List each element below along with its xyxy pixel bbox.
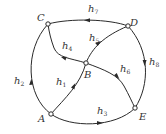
edge-h2 (31, 24, 51, 114)
edge-label-h3: h3 (97, 106, 107, 117)
edge-label-h8: h8 (149, 57, 159, 68)
arrow-h2-icon (29, 79, 33, 85)
node-label-e: E (139, 112, 146, 122)
node-label-c: C (37, 13, 45, 23)
node-c (46, 22, 50, 26)
node-e (133, 106, 137, 110)
arrow-h4-icon (61, 57, 67, 61)
edge-label-h5: h5 (89, 33, 99, 44)
edge-label-h2: h2 (14, 76, 24, 87)
edge-h3 (51, 108, 135, 124)
edge-label-h7: h7 (88, 4, 98, 15)
node-label-a: A (38, 114, 45, 124)
arrow-h3-icon (97, 121, 103, 125)
edge-h8 (128, 26, 145, 108)
edge-label-h4: h4 (62, 41, 72, 52)
node-a (49, 112, 53, 116)
edge-label-h1: h1 (56, 77, 66, 88)
edge-label-h6: h6 (120, 64, 130, 75)
node-label-b: B (84, 70, 91, 80)
arrow-h8-icon (143, 60, 147, 66)
arrow-h7-icon (84, 18, 90, 22)
node-label-d: D (130, 18, 138, 28)
edge-h1 (51, 63, 86, 114)
arrow-h1-icon (71, 83, 76, 89)
node-b (84, 61, 88, 65)
